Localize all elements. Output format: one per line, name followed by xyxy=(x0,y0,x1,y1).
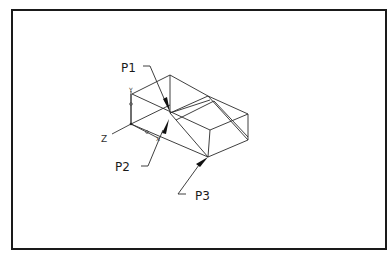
callout-p2-arrowhead-icon xyxy=(162,119,169,134)
coordinate-triad: Y Z X xyxy=(101,86,160,144)
callout-p3-label: P3 xyxy=(195,189,210,203)
y-axis-label: Y xyxy=(128,86,133,93)
callout-p3-arrowhead-icon xyxy=(196,157,208,167)
wireframe-block xyxy=(131,75,248,157)
callout-p1-leader xyxy=(143,66,166,103)
z-axis-label: Z xyxy=(101,134,107,144)
callout-p3: P3 xyxy=(178,157,210,203)
x-axis-line xyxy=(131,124,158,138)
z-axis-line xyxy=(112,124,131,134)
callout-p2: P2 xyxy=(115,119,169,174)
triad-origin-dot xyxy=(130,123,133,126)
callout-p2-label: P2 xyxy=(115,160,130,174)
callout-p1-label: P1 xyxy=(121,61,136,75)
isometric-wireframe-drawing: Y Z X P1 P2 P3 xyxy=(0,0,392,255)
